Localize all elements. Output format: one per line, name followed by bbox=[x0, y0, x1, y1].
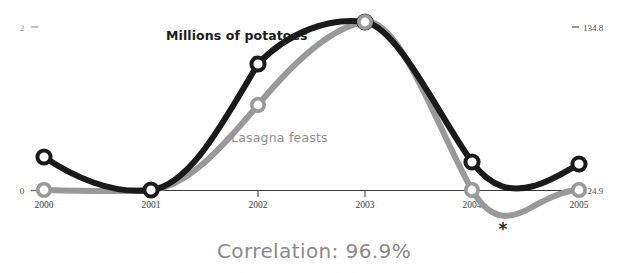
chart-container: 2 0 134.8 124.9 2000 2001 2002 2003 2004… bbox=[0, 0, 629, 273]
data-point-lasagna-2004 bbox=[466, 184, 478, 196]
footnote-asterisk-annotation: * bbox=[499, 219, 508, 239]
data-point-lasagna-2000 bbox=[38, 184, 50, 196]
data-point-potatoes-2000 bbox=[37, 150, 50, 163]
x-tick-label-2003: 2003 bbox=[356, 200, 375, 210]
data-point-lasagna-2003-overlay bbox=[359, 16, 371, 28]
left-axis-top-tick-label: 2 bbox=[20, 23, 25, 33]
data-point-potatoes-2004 bbox=[465, 155, 478, 168]
x-tick-label-2000: 2000 bbox=[35, 200, 54, 210]
data-point-potatoes-2002 bbox=[251, 57, 264, 70]
series-label-millions-of-potatoes: Millions of potatoes bbox=[166, 28, 308, 43]
x-tick-label-2002: 2002 bbox=[249, 200, 268, 210]
x-tick-label-2001: 2001 bbox=[142, 200, 161, 210]
x-tick-label-2005: 2005 bbox=[570, 200, 589, 210]
series-label-lasagna-feasts: Lasagna feasts bbox=[231, 130, 328, 145]
correlation-line-chart: 2 0 134.8 124.9 2000 2001 2002 2003 2004… bbox=[0, 0, 629, 273]
right-axis-top-tick-label: 134.8 bbox=[583, 23, 604, 33]
series-markers-millions-of-potatoes bbox=[37, 15, 585, 196]
correlation-caption: Correlation: 96.9% bbox=[217, 239, 411, 263]
data-point-lasagna-2005 bbox=[573, 184, 585, 196]
x-axis-tick-labels: 2000 2001 2002 2003 2004 2005 bbox=[35, 200, 589, 210]
left-axis-bottom-tick-label: 0 bbox=[20, 186, 25, 196]
data-point-potatoes-2001 bbox=[144, 183, 157, 196]
data-point-potatoes-2005 bbox=[572, 157, 585, 170]
series-markers-lasagna-feasts bbox=[38, 16, 585, 196]
data-point-lasagna-2002 bbox=[252, 99, 264, 111]
